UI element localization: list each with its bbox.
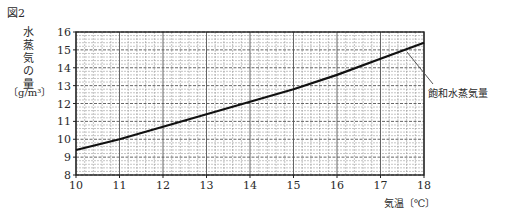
svg-text:15: 15 xyxy=(57,44,71,57)
svg-text:16: 16 xyxy=(57,26,71,39)
svg-text:18: 18 xyxy=(417,179,431,192)
series-annotation-label: 飽和水蒸気量 xyxy=(428,85,488,100)
svg-text:13: 13 xyxy=(200,179,214,192)
svg-text:10: 10 xyxy=(57,133,71,146)
y-axis-label-char: 気 xyxy=(20,52,36,65)
svg-text:17: 17 xyxy=(374,179,388,192)
chart-figure: 8910111213141516 101112131415161718 図2 水… xyxy=(0,0,507,222)
svg-text:10: 10 xyxy=(69,179,83,192)
svg-text:15: 15 xyxy=(287,179,301,192)
figure-label: 図2 xyxy=(7,4,25,20)
svg-text:12: 12 xyxy=(57,98,71,111)
svg-text:9: 9 xyxy=(64,151,71,164)
chart-plot: 8910111213141516 101112131415161718 xyxy=(0,0,507,222)
y-axis-label: 水 蒸 気 の 量 xyxy=(20,26,36,91)
y-axis-label-char: 水 xyxy=(20,26,36,39)
y-axis-ticks: 8910111213141516 xyxy=(57,26,76,182)
svg-text:13: 13 xyxy=(57,80,71,93)
y-axis-unit: 〔g/m³〕 xyxy=(8,84,51,99)
y-axis-label-char: 蒸 xyxy=(20,39,36,52)
y-axis-label-char: の xyxy=(20,65,36,78)
svg-text:11: 11 xyxy=(57,115,71,128)
svg-text:14: 14 xyxy=(57,62,71,75)
svg-text:14: 14 xyxy=(243,179,257,192)
svg-text:11: 11 xyxy=(113,179,127,192)
svg-text:12: 12 xyxy=(156,179,170,192)
svg-text:16: 16 xyxy=(330,179,344,192)
x-axis-ticks: 101112131415161718 xyxy=(69,175,431,192)
x-axis-label: 気温〔℃〕 xyxy=(384,195,435,210)
